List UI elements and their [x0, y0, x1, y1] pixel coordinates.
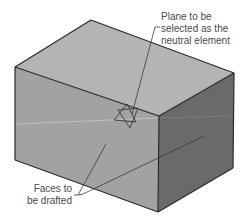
plane-callout-label: Plane to be selected as the neutral elem…: [161, 11, 230, 47]
plane-callout-line-2: selected as the: [161, 23, 230, 35]
plane-callout-line-1: Plane to be: [161, 11, 230, 23]
plane-callout-line-3: neutral element: [161, 35, 230, 47]
faces-callout-line-1: Faces to: [24, 183, 72, 195]
faces-callout-label: Faces to be drafted: [24, 183, 72, 207]
faces-callout-line-2: be drafted: [24, 195, 72, 207]
